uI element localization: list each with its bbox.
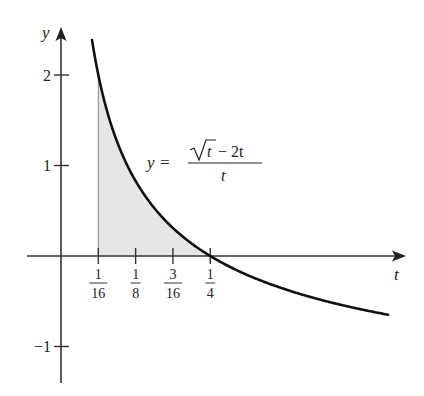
x-tick-numerator: 1: [132, 267, 139, 282]
equation-equals: =: [160, 153, 170, 172]
x-tick-denominator: 4: [207, 286, 214, 301]
equation-numerator-rest: − 2t: [218, 143, 244, 160]
sqrt-sign-icon: [190, 140, 216, 160]
equation-lhs: y: [145, 153, 155, 172]
x-tick-denominator: 16: [166, 286, 180, 301]
y-tick-label: −1: [34, 338, 51, 355]
x-tick-numerator: 1: [95, 267, 102, 282]
y-ticks: 21−1: [34, 67, 69, 356]
equation-label: y = t − 2t t: [145, 140, 262, 184]
x-tick-denominator: 16: [91, 286, 105, 301]
y-axis-label: y: [40, 23, 50, 42]
x-tick-denominator: 8: [132, 286, 139, 301]
chart: t y 1161831614 21−1 y = t − 2t t: [0, 0, 424, 396]
y-tick-label: 1: [43, 157, 51, 174]
equation-numerator-sqrt: t: [207, 143, 212, 160]
equation-denominator: t: [221, 167, 226, 184]
x-tick-numerator: 1: [207, 267, 214, 282]
x-tick-numerator: 3: [169, 267, 176, 282]
y-tick-label: 2: [43, 67, 51, 84]
x-axis-label: t: [394, 265, 400, 284]
